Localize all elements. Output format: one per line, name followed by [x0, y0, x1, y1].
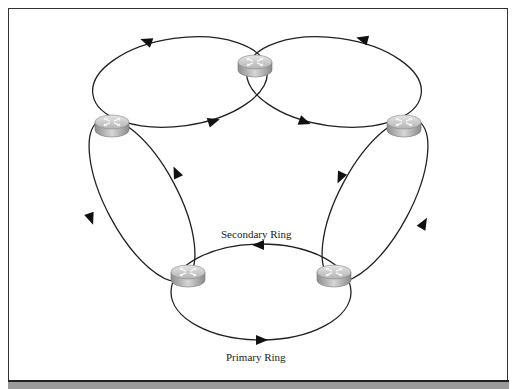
arrow-icon [417, 215, 432, 230]
router-left [95, 115, 129, 137]
ring-link-bottom [171, 244, 351, 340]
router-icon [387, 115, 421, 137]
router-icon [238, 55, 272, 77]
router-top [238, 55, 272, 77]
primary-ring-label: Primary Ring [226, 351, 286, 363]
router-bottom-left [171, 265, 205, 287]
footer-bar [8, 380, 509, 389]
router-icon [95, 115, 129, 137]
router-right [387, 115, 421, 137]
router-icon [171, 265, 205, 287]
router-icon [317, 265, 351, 287]
arrow-icon [256, 335, 268, 345]
dual-ring-diagram [0, 0, 516, 389]
arrow-icon [252, 240, 264, 250]
direction-arrows [84, 33, 431, 345]
arrow-icon [84, 212, 98, 227]
router-bottom-right [317, 265, 351, 287]
arrow-icon [333, 170, 347, 185]
arrow-icon [207, 114, 222, 127]
secondary-ring-label: Secondary Ring [221, 228, 292, 240]
